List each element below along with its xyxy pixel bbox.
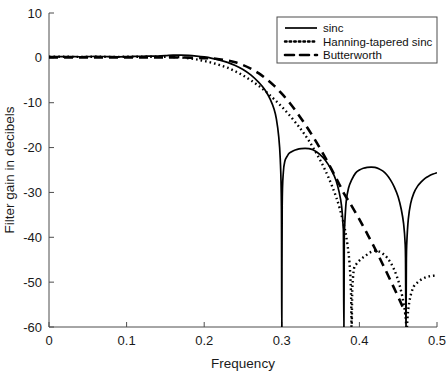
legend-label: Butterworth [323, 49, 382, 61]
chart-canvas: 00.10.20.30.40.5 100-10-20-30-40-50-60 F… [0, 0, 448, 374]
x-tick-label: 0.4 [350, 333, 368, 348]
y-tick-label: -20 [23, 140, 42, 155]
legend-label: sinc [323, 22, 344, 34]
y-tick-label: 10 [28, 6, 42, 21]
y-tick-label: -50 [23, 275, 42, 290]
y-axis-title: Filter gain in decibels [2, 106, 17, 233]
y-tick-label: -60 [23, 320, 42, 335]
x-axis-title: Frequency [211, 356, 275, 371]
x-tick-label: 0.2 [195, 333, 213, 348]
legend-label: Hanning-tapered sinc [323, 36, 433, 48]
chart-legend: sincHanning-tapered sincButterworth [277, 17, 437, 63]
y-tick-label: -40 [23, 230, 42, 245]
y-tick-label: -30 [23, 185, 42, 200]
y-tick-label: 0 [35, 50, 42, 65]
x-tick-label: 0.1 [118, 333, 136, 348]
filter-response-chart: 00.10.20.30.40.5 100-10-20-30-40-50-60 F… [0, 0, 448, 374]
x-tick-label: 0.5 [428, 333, 446, 348]
x-tick-label: 0 [45, 333, 52, 348]
x-tick-label: 0.3 [273, 333, 291, 348]
y-tick-label: -10 [23, 95, 42, 110]
